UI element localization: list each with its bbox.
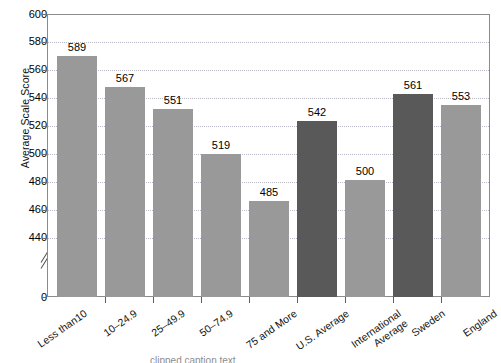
x-tick-6 — [345, 297, 346, 303]
bar-value-75-and-more: 485 — [249, 187, 289, 198]
bar-50-74-9[interactable] — [201, 154, 241, 297]
bar-international-average[interactable] — [345, 180, 385, 297]
bar-us-average[interactable] — [297, 121, 337, 297]
x-tick-4 — [249, 297, 250, 303]
y-tick-label-480: 480 — [7, 176, 47, 187]
bars-layer: 589 567 551 519 485 542 500 561 553 — [47, 14, 490, 297]
bar-value-international-average: 500 — [345, 166, 385, 177]
y-tick-label-600: 600 — [7, 9, 47, 20]
y-tick-label-580: 580 — [7, 36, 47, 47]
x-tick-7 — [393, 297, 394, 303]
y-tick-label-560: 560 — [7, 64, 47, 75]
y-axis-ticks: 600 580 560 540 520 500 480 460 440 0 — [0, 0, 47, 363]
x-tick-5 — [297, 297, 298, 303]
x-tick-3 — [201, 297, 202, 303]
bar-value-50-74-9: 519 — [201, 140, 241, 151]
x-tick-2 — [153, 297, 154, 303]
bar-value-25-49-9: 551 — [153, 95, 193, 106]
y-tick-label-460: 460 — [7, 204, 47, 215]
y-tick-label-500: 500 — [7, 148, 47, 159]
bar-value-sweden: 561 — [393, 80, 433, 91]
y-tick-label-520: 520 — [7, 120, 47, 131]
bar-75-and-more[interactable] — [249, 201, 289, 297]
bar-value-10-24-9: 567 — [105, 73, 145, 84]
bar-value-us-average: 542 — [297, 107, 337, 118]
bar-sweden[interactable] — [393, 94, 433, 297]
y-tick-label-540: 540 — [7, 92, 47, 103]
bar-value-england: 553 — [441, 91, 481, 102]
bar-chart: Average Scale Score 600 580 560 540 520 … — [0, 0, 501, 363]
bar-25-49-9[interactable] — [153, 109, 193, 297]
bar-england[interactable] — [441, 105, 481, 297]
x-tick-8 — [441, 297, 442, 303]
y-tick-label-0: 0 — [7, 292, 47, 303]
bar-less-than-10[interactable] — [57, 56, 97, 297]
y-tick-label-440: 440 — [7, 232, 47, 243]
bar-10-24-9[interactable] — [105, 87, 145, 297]
x-tick-1 — [105, 297, 106, 303]
bottom-caption-clipped: clipped caption text — [150, 355, 501, 363]
y-tick-mark-0 — [42, 297, 47, 298]
bar-value-less-than-10: 589 — [57, 42, 97, 53]
